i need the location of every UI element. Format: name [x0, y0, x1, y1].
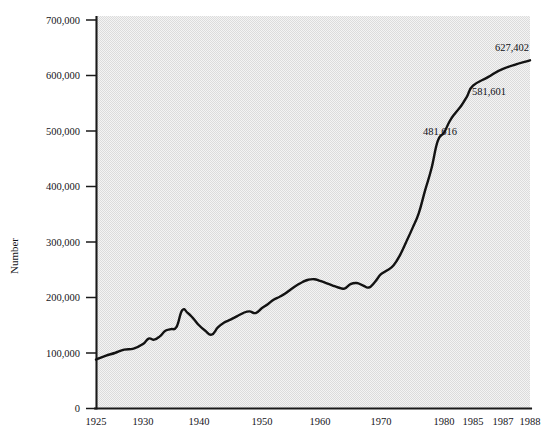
x-tick-label: 1985 [463, 416, 484, 427]
y-tick-label: 300,000 [46, 237, 80, 248]
x-tick-label: 1960 [310, 416, 331, 427]
x-tick-label: 1980 [434, 416, 455, 427]
x-tick-label: 1970 [371, 416, 392, 427]
y-tick-label: 0 [75, 403, 80, 414]
y-tick-label: 100,000 [46, 348, 80, 359]
data-point-annotation: 627,402 [495, 42, 529, 53]
chart-figure: 0100,000200,000300,000400,000500,000600,… [0, 0, 554, 445]
line-chart: 0100,000200,000300,000400,000500,000600,… [0, 0, 554, 445]
y-tick-label: 200,000 [46, 292, 80, 303]
y-axis-title: Number [8, 238, 20, 274]
x-tick-label: 1988 [520, 416, 541, 427]
y-axis-ticks [86, 20, 96, 409]
y-axis-tick-labels: 0100,000200,000300,000400,000500,000600,… [46, 15, 80, 415]
x-tick-label: 1925 [86, 416, 107, 427]
x-tick-label: 1930 [133, 416, 154, 427]
data-point-annotation: 581,601 [472, 86, 506, 97]
x-tick-label: 1950 [252, 416, 273, 427]
x-axis-tick-labels: 1925193019401950196019701980198519871988 [86, 416, 541, 427]
plot-area-background [96, 16, 530, 408]
y-tick-label: 400,000 [46, 181, 80, 192]
data-point-annotation: 481,616 [423, 126, 457, 137]
x-tick-label: 1987 [493, 416, 514, 427]
x-tick-label: 1940 [189, 416, 210, 427]
y-tick-label: 500,000 [46, 126, 80, 137]
y-tick-label: 700,000 [46, 15, 80, 26]
y-tick-label: 600,000 [46, 70, 80, 81]
